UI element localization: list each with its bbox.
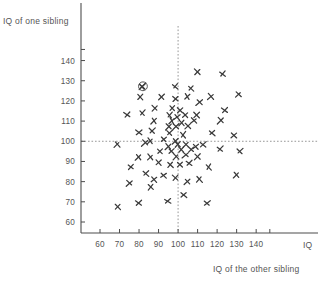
data-point-marker — [206, 164, 211, 170]
data-point-marker — [231, 133, 237, 138]
data-point-marker — [128, 164, 133, 169]
y-axis-tick-label: 70 — [65, 198, 75, 207]
x-axis-tick-label: 120 — [210, 240, 225, 249]
data-point-marker — [148, 184, 153, 190]
data-point-marker — [126, 180, 132, 186]
data-point-marker — [168, 162, 173, 167]
data-point-marker — [165, 199, 171, 204]
data-point-marker — [220, 71, 226, 76]
y-axis-tick-label: 140 — [61, 57, 76, 66]
data-point-marker — [188, 147, 193, 152]
y-axis-tick-label: 100 — [61, 137, 76, 146]
data-point-marker — [191, 118, 197, 123]
data-point-marker — [233, 172, 238, 178]
data-point-marker — [186, 160, 192, 165]
x-axis-tick-label: 70 — [115, 240, 125, 249]
data-point-marker — [138, 94, 143, 100]
data-point-marker — [169, 149, 174, 154]
data-point-marker — [172, 175, 178, 180]
data-point-marker — [135, 200, 141, 205]
data-point-marker — [161, 137, 166, 142]
data-point-marker — [181, 193, 187, 198]
data-point-marker — [194, 112, 200, 118]
data-point-marker — [143, 171, 149, 177]
data-point-marker — [151, 118, 156, 124]
data-point-marker — [194, 69, 200, 75]
data-point-marker — [183, 113, 188, 118]
y-axis-tick-label: 110 — [61, 117, 75, 126]
data-point-marker — [151, 177, 157, 183]
data-point-marker — [170, 106, 175, 111]
y-axis-tick-label: 90 — [65, 157, 75, 166]
data-point-marker — [139, 84, 145, 90]
data-point-marker — [174, 115, 180, 120]
data-point-marker — [179, 147, 184, 152]
data-point-marker — [204, 201, 210, 205]
data-point-marker — [169, 118, 174, 124]
data-point-marker — [217, 117, 223, 124]
data-point-marker — [177, 162, 182, 167]
x-axis-tick-label: 140 — [249, 240, 264, 249]
x-axis-tick-label: 130 — [230, 240, 245, 249]
x-axis-tick-label: 90 — [154, 240, 164, 249]
data-point-marker — [217, 146, 223, 151]
reference-lines — [81, 26, 318, 233]
data-point-marker — [156, 160, 161, 166]
y-axis-tick-label: 120 — [61, 97, 76, 106]
data-point-marker — [135, 155, 140, 161]
data-point-marker — [181, 131, 186, 138]
data-point-marker — [173, 124, 179, 130]
data-point-marker — [152, 105, 157, 111]
data-point-marker — [159, 94, 165, 100]
data-point-marker — [161, 173, 167, 178]
data-point-marker — [166, 124, 172, 130]
x-axis-tick-label: 100 — [171, 240, 186, 249]
data-point-marker — [124, 112, 130, 117]
data-point-marker — [115, 204, 120, 209]
data-point-marker — [136, 130, 142, 135]
data-point-marker — [208, 93, 214, 99]
data-point-marker — [194, 154, 200, 160]
y-axis-tick-label: 130 — [61, 77, 76, 86]
data-point-marker — [237, 148, 243, 153]
data-point-marker — [209, 130, 215, 135]
data-point-marker — [165, 144, 171, 150]
data-point-marker — [158, 149, 163, 154]
data-point-marker — [185, 123, 191, 129]
data-point-marker — [236, 92, 242, 97]
x-axis-tick-label: 60 — [95, 240, 105, 249]
data-point-marker — [185, 94, 190, 100]
y-axis-tick-label: 80 — [65, 178, 75, 187]
data-point-marker — [167, 130, 173, 135]
x-axis-tick-label: 110 — [191, 240, 205, 249]
data-point-marker — [182, 152, 188, 158]
data-point-marker — [200, 142, 206, 147]
data-point-marker — [141, 140, 147, 146]
x-axis-tick-label: 80 — [134, 240, 144, 249]
data-point-marker — [197, 176, 203, 182]
scatter-plot-figure: IQ of one sibling IQ of the other siblin… — [0, 0, 326, 281]
data-point-marker — [149, 128, 155, 133]
data-point-marker — [148, 154, 153, 160]
data-point-marker — [221, 107, 227, 112]
data-point-marker — [167, 112, 172, 118]
data-point-marker — [173, 84, 178, 89]
data-point-marker — [179, 120, 184, 126]
data-point-marker — [184, 179, 190, 184]
data-point-marker — [173, 96, 178, 101]
data-point-marker — [140, 110, 145, 116]
data-point-marker — [196, 100, 203, 106]
y-axis-tick-label: 60 — [65, 218, 75, 227]
data-point-marker — [183, 142, 188, 147]
plot-canvas: 6070809010011012013014060708090100110120… — [0, 0, 326, 281]
data-point-marker — [114, 142, 120, 148]
data-point-marker — [189, 86, 194, 91]
